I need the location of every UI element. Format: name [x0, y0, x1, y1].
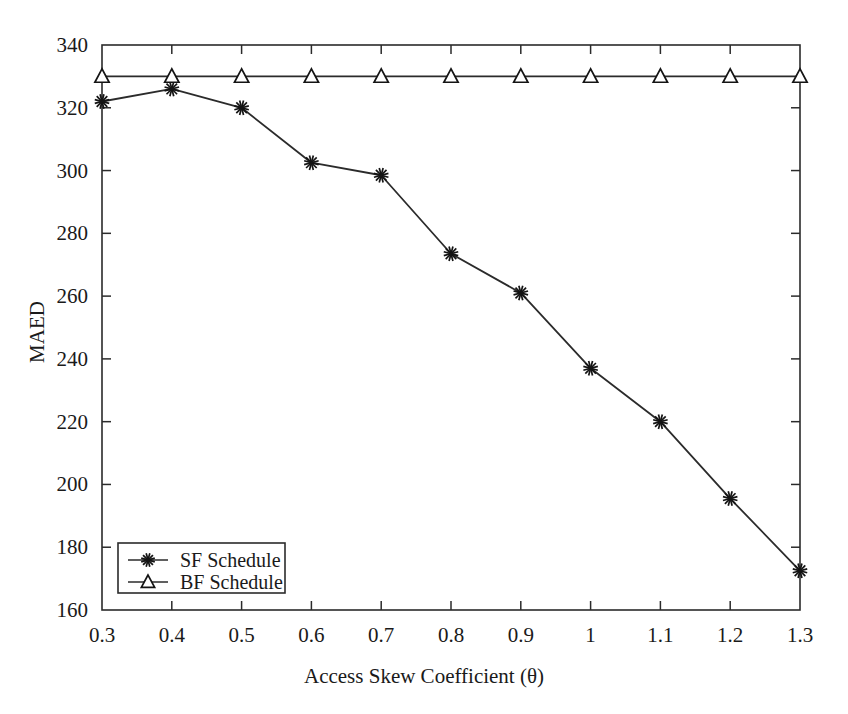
- y-axis-title: MAED: [25, 301, 49, 363]
- y-tick-label: 220: [57, 410, 89, 434]
- y-tick-label: 260: [57, 284, 89, 308]
- chart-legend: SF ScheduleBF Schedule: [118, 543, 285, 593]
- x-tick-label: 0.7: [368, 623, 394, 647]
- y-tick-label: 320: [57, 96, 89, 120]
- x-axis-title: Access Skew Coefficient (θ): [304, 664, 544, 688]
- x-tick-label: 0.3: [89, 623, 115, 647]
- x-tick-label: 0.6: [298, 623, 324, 647]
- legend-label: SF Schedule: [180, 549, 281, 571]
- y-tick-label: 200: [57, 472, 89, 496]
- line-chart: 160180200220240260280300320340 0.30.40.5…: [0, 0, 848, 714]
- x-tick-label: 1.2: [717, 623, 743, 647]
- x-tick-label: 1.1: [647, 623, 673, 647]
- x-tick-label: 0.4: [159, 623, 186, 647]
- y-tick-label: 180: [57, 535, 89, 559]
- x-tick-label: 0.9: [508, 623, 534, 647]
- x-tick-label: 1: [585, 623, 596, 647]
- y-tick-label: 160: [57, 598, 89, 622]
- x-tick-label: 0.5: [228, 623, 254, 647]
- chart-figure: 160180200220240260280300320340 0.30.40.5…: [0, 0, 848, 714]
- y-tick-label: 300: [57, 159, 89, 183]
- x-tick-label: 1.3: [787, 623, 813, 647]
- y-tick-label: 340: [57, 33, 89, 57]
- y-tick-label: 240: [57, 347, 89, 371]
- chart-background: [0, 0, 848, 714]
- y-tick-label: 280: [57, 221, 89, 245]
- x-tick-label: 0.8: [438, 623, 464, 647]
- legend-label: BF Schedule: [180, 571, 283, 593]
